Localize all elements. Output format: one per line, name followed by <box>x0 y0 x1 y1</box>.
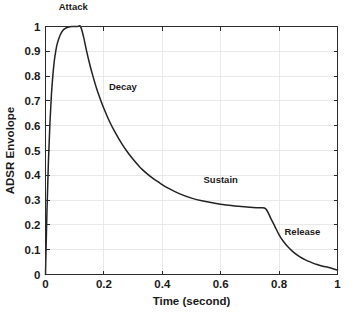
chart-background <box>0 0 356 318</box>
x-tick-label: 0 <box>42 278 48 290</box>
y-tick-label: 0.2 <box>25 219 41 231</box>
x-tick-label: 1 <box>334 278 341 290</box>
y-tick-label: 1 <box>34 21 41 33</box>
y-tick-label: 0.1 <box>25 244 42 256</box>
y-tick-label: 0.4 <box>25 169 42 181</box>
x-axis-title: Time (second) <box>153 295 231 307</box>
y-tick-label: 0 <box>34 269 40 281</box>
y-axis-title: ADSR Envolope <box>4 107 16 195</box>
y-tick-label: 0.8 <box>25 70 42 82</box>
y-tick-label: 0.5 <box>25 145 42 157</box>
x-tick-label: 0.6 <box>213 278 229 290</box>
x-tick-label: 0.8 <box>271 278 288 290</box>
figure-container: 00.20.40.60.81 00.10.20.30.40.50.60.70.8… <box>0 0 356 318</box>
x-tick-label: 0.2 <box>96 278 112 290</box>
y-tick-label: 0.9 <box>25 45 41 57</box>
annotation-decay: Decay <box>109 81 138 92</box>
y-tick-label: 0.6 <box>25 120 41 132</box>
y-tick-label: 0.7 <box>25 95 41 107</box>
annotation-sustain: Sustain <box>204 174 239 185</box>
y-tick-label: 0.3 <box>25 194 41 206</box>
annotation-release: Release <box>284 226 320 237</box>
adsr-envelope-chart: 00.20.40.60.81 00.10.20.30.40.50.60.70.8… <box>0 0 356 318</box>
x-tick-label: 0.4 <box>154 278 171 290</box>
annotation-attack: Attack <box>59 1 89 12</box>
